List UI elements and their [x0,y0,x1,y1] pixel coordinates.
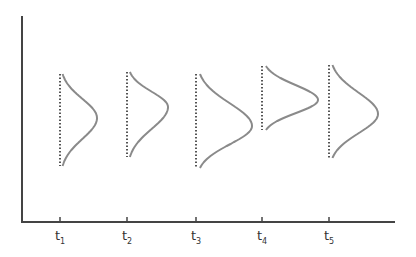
diagram-canvas [0,0,416,257]
tick-label-t5: t5 [324,228,334,246]
tick-label-t4: t4 [257,228,267,246]
distribution-curve-2 [130,72,168,157]
tick-label-t1: t1 [55,228,65,246]
distribution-curve-1 [63,74,97,166]
distribution-curves [60,65,378,168]
tick-label-t2: t2 [122,228,132,246]
tick-label-t3: t3 [191,228,201,246]
distribution-curve-3 [200,74,252,168]
distribution-curve-5 [333,65,379,158]
distribution-curve-4 [266,66,318,130]
